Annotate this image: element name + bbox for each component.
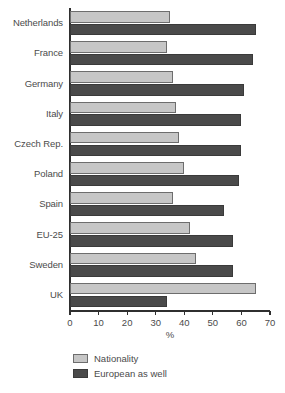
bar-nationality [70,283,256,295]
x-tick-label: 70 [258,317,282,328]
bar-nationality [70,222,190,234]
x-axis-title: % [70,329,270,340]
bar-european-as-well [70,114,241,126]
bar-european-as-well [70,24,256,36]
legend-label: European as well [94,368,167,379]
plot-area: 010203040506070 [70,8,270,310]
bar-nationality [70,11,170,23]
category-label: UK [0,290,63,300]
bar-european-as-well [70,205,224,217]
category-label: Sweden [0,260,63,270]
bar-european-as-well [70,84,244,96]
bar-nationality [70,192,173,204]
category-axis-labels: NetherlandsFranceGermanyItalyCzech Rep.P… [0,8,63,310]
x-tick-label: 40 [172,317,196,328]
bar-nationality [70,162,184,174]
x-tick [155,311,156,315]
x-tick-label: 30 [144,317,168,328]
bar-nationality [70,71,173,83]
bar-european-as-well [70,145,241,157]
bar-european-as-well [70,296,167,308]
x-tick [212,311,213,315]
x-tick-label: 10 [87,317,111,328]
category-label: EU-25 [0,230,63,240]
bar-chart: NetherlandsFranceGermanyItalyCzech Rep.P… [0,0,285,393]
x-tick [269,311,270,315]
x-tick-label: 0 [58,317,82,328]
bar-european-as-well [70,54,253,66]
x-tick [69,311,70,315]
bar-nationality [70,41,167,53]
bar-nationality [70,102,176,114]
bar-nationality [70,253,196,265]
x-tick-label: 20 [115,317,139,328]
legend-item: European as well [73,367,167,380]
category-label: France [0,48,63,58]
bar-european-as-well [70,235,233,247]
category-label: Czech Rep. [0,139,63,149]
x-tick-label: 50 [201,317,225,328]
x-tick [127,311,128,315]
legend-item: Nationality [73,352,167,365]
bar-nationality [70,132,179,144]
chart-legend: NationalityEuropean as well [73,352,167,382]
category-label: Germany [0,79,63,89]
category-label: Italy [0,109,63,119]
legend-label: Nationality [94,353,138,364]
x-tick [184,311,185,315]
category-label: Netherlands [0,18,63,28]
legend-swatch-light [73,354,88,363]
x-tick [241,311,242,315]
category-label: Poland [0,169,63,179]
category-label: Spain [0,199,63,209]
x-tick-label: 60 [229,317,253,328]
x-tick [98,311,99,315]
bar-european-as-well [70,175,239,187]
bar-european-as-well [70,265,233,277]
legend-swatch-dark [73,369,88,378]
